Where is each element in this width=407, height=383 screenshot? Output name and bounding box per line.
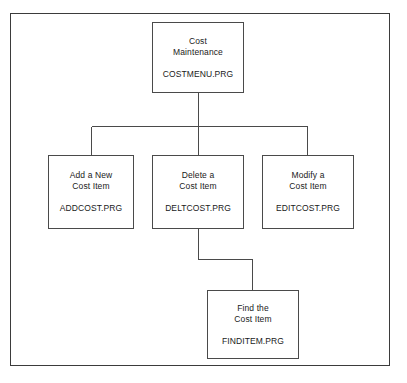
node-add-cost-item[interactable]: Add a New Cost Item ADDCOST.PRG [48, 155, 134, 229]
node-root-title: Cost Maintenance [173, 36, 223, 58]
node-cost-maintenance[interactable]: Cost Maintenance COSTMENU.PRG [152, 22, 244, 93]
node-find-title: Find the Cost Item [234, 303, 271, 325]
node-root-file: COSTMENU.PRG [163, 69, 234, 80]
node-find-file: FINDITEM.PRG [222, 336, 284, 347]
node-add-file: ADDCOST.PRG [60, 203, 123, 214]
diagram-canvas: Cost Maintenance COSTMENU.PRG Add a New … [0, 0, 407, 383]
node-modify-cost-item[interactable]: Modify a Cost Item EDITCOST.PRG [262, 155, 354, 229]
node-delete-title: Delete a Cost Item [179, 170, 216, 192]
node-modify-title: Modify a Cost Item [289, 170, 326, 192]
node-delete-cost-item[interactable]: Delete a Cost Item DELTCOST.PRG [152, 155, 244, 229]
node-find-cost-item[interactable]: Find the Cost Item FINDITEM.PRG [207, 290, 299, 359]
node-add-title: Add a New Cost Item [70, 170, 112, 192]
node-delete-file: DELTCOST.PRG [165, 203, 231, 214]
node-modify-file: EDITCOST.PRG [276, 203, 340, 214]
